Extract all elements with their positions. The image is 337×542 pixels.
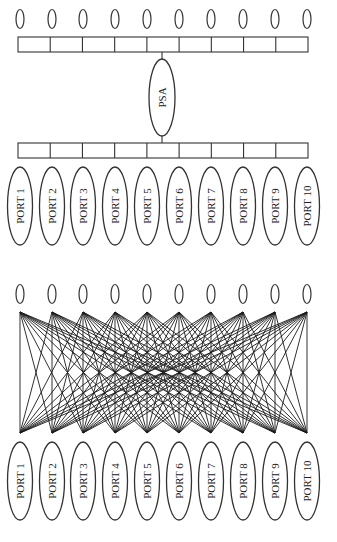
bottom-port-2: PORT 2 <box>40 442 65 520</box>
full-mesh-links <box>20 312 307 433</box>
bottom-small-node-8 <box>239 285 247 304</box>
bottom-port-10: PORT 10 <box>295 442 320 520</box>
bottom-port-8-label: PORT 8 <box>237 463 249 499</box>
bottom-port-5: PORT 5 <box>135 442 160 520</box>
top-small-node-7 <box>207 10 215 29</box>
top-port-1-label: PORT 1 <box>14 188 26 224</box>
top-port-9: PORT 9 <box>263 167 288 245</box>
bottom-port-1: PORT 1 <box>8 442 33 520</box>
bottom-small-node-3 <box>79 285 87 304</box>
bottom-port-10-label: PORT 10 <box>301 460 313 502</box>
bottom-port-9-label: PORT 9 <box>269 463 281 499</box>
bottom-port-7-label: PORT 7 <box>205 463 217 499</box>
bottom-port-3: PORT 3 <box>71 442 96 520</box>
top-port-7: PORT 7 <box>199 167 224 245</box>
psa-topology: PSAPORT 1PORT 2PORT 3PORT 4PORT 5PORT 6P… <box>8 10 320 246</box>
bottom-port-4-label: PORT 4 <box>109 463 121 499</box>
bottom-port-1-label: PORT 1 <box>14 463 26 499</box>
top-port-5: PORT 5 <box>135 167 160 245</box>
top-port-8-label: PORT 8 <box>237 188 249 224</box>
bottom-port-3-label: PORT 3 <box>77 463 89 499</box>
top-small-node-2 <box>48 10 56 29</box>
top-port-1: PORT 1 <box>8 167 33 245</box>
top-port-3: PORT 3 <box>71 167 96 245</box>
psa-hub: PSA <box>149 59 175 136</box>
top-small-node-10 <box>303 10 311 29</box>
bottom-small-node-6 <box>175 285 183 304</box>
psa-label: PSA <box>156 87 168 107</box>
bottom-port-8: PORT 8 <box>231 442 256 520</box>
lower-buffer-bar <box>18 143 308 158</box>
bottom-small-node-7 <box>207 285 215 304</box>
top-port-2: PORT 2 <box>40 167 65 245</box>
top-port-3-label: PORT 3 <box>77 188 89 224</box>
bottom-port-4: PORT 4 <box>103 442 128 520</box>
top-small-node-1 <box>16 10 24 29</box>
bottom-port-6-label: PORT 6 <box>173 463 185 499</box>
bottom-small-node-9 <box>271 285 279 304</box>
top-port-7-label: PORT 7 <box>205 188 217 224</box>
bottom-small-node-1 <box>16 285 24 304</box>
bottom-small-node-4 <box>111 285 119 304</box>
mesh-topology: PORT 1PORT 2PORT 3PORT 4PORT 5PORT 6PORT… <box>8 285 320 521</box>
top-small-node-9 <box>271 10 279 29</box>
top-small-node-5 <box>143 10 151 29</box>
bottom-port-5-label: PORT 5 <box>141 463 153 499</box>
bottom-port-2-label: PORT 2 <box>46 463 58 499</box>
bottom-small-node-5 <box>143 285 151 304</box>
top-port-8: PORT 8 <box>231 167 256 245</box>
top-small-node-8 <box>239 10 247 29</box>
network-topology-diagram: PSAPORT 1PORT 2PORT 3PORT 4PORT 5PORT 6P… <box>0 0 337 542</box>
bottom-port-9: PORT 9 <box>263 442 288 520</box>
bottom-port-7: PORT 7 <box>199 442 224 520</box>
bottom-small-node-10 <box>303 285 311 304</box>
top-port-6: PORT 6 <box>167 167 192 245</box>
bottom-small-node-2 <box>48 285 56 304</box>
top-small-node-4 <box>111 10 119 29</box>
top-port-4-label: PORT 4 <box>109 188 121 224</box>
top-port-10-label: PORT 10 <box>301 185 313 227</box>
upper-buffer-bar <box>18 37 308 52</box>
bottom-port-6: PORT 6 <box>167 442 192 520</box>
top-port-2-label: PORT 2 <box>46 188 58 224</box>
top-port-10: PORT 10 <box>295 167 320 245</box>
top-port-6-label: PORT 6 <box>173 188 185 224</box>
top-port-5-label: PORT 5 <box>141 188 153 224</box>
top-small-node-6 <box>175 10 183 29</box>
top-port-9-label: PORT 9 <box>269 188 281 224</box>
top-small-node-3 <box>79 10 87 29</box>
top-port-4: PORT 4 <box>103 167 128 245</box>
